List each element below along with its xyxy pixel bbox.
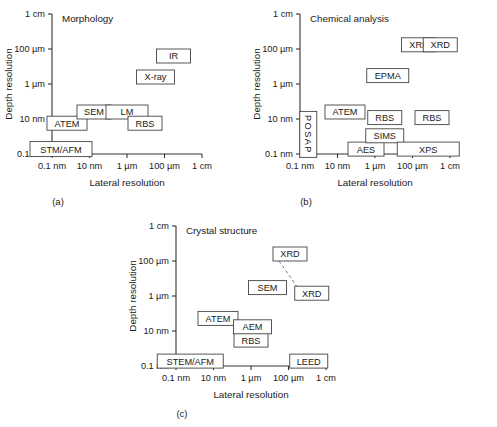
- technique-box: POSAP: [300, 111, 317, 157]
- y-axis-title: Depth resolution: [3, 48, 14, 119]
- x-tick-label: 1 cm: [192, 161, 212, 171]
- x-tick-label: 0.1 nm: [286, 161, 314, 171]
- technique-label: ATEM: [333, 107, 358, 117]
- technique-label: AEM: [243, 322, 263, 332]
- technique-label: RBS: [423, 113, 442, 123]
- technique-box: XRD: [295, 286, 329, 300]
- technique-label: X-ray: [145, 72, 167, 82]
- x-tick-label: 100 µm: [397, 161, 428, 171]
- y-tick-label: 100 µm: [138, 256, 169, 266]
- x-tick-label: 1 cm: [440, 161, 460, 171]
- x-tick-label: 0.1 nm: [38, 161, 66, 171]
- technique-box: EPMA: [367, 69, 409, 83]
- y-tick-label: 100 µm: [14, 44, 45, 54]
- technique-label: XRD: [431, 40, 451, 50]
- technique-box: SEM: [249, 281, 287, 295]
- technique-box: STM/AFM: [30, 142, 92, 157]
- y-tick-label: 1 cm: [273, 9, 293, 19]
- technique-box: X-ray: [137, 70, 175, 84]
- technique-label: SEM: [84, 107, 104, 117]
- y-tick-label: 1 µm: [148, 291, 169, 301]
- technique-box: RBS: [128, 116, 162, 130]
- technique-box: SIMS: [366, 129, 404, 143]
- y-tick-label: 1 cm: [149, 221, 169, 231]
- x-tick-label: 1 µm: [117, 161, 138, 171]
- panel-caption: (b): [300, 196, 312, 207]
- panel-c: 1 cm100 µm1 µm10 nm0.1 nm0.1 nm10 nm1 µm…: [124, 212, 373, 426]
- technique-label: LEED: [297, 357, 321, 367]
- technique-box: STEM/AFM: [157, 354, 223, 368]
- technique-label: STEM/AFM: [167, 357, 214, 367]
- technique-label: STM/AFM: [40, 145, 81, 155]
- x-tick-label: 100 µm: [149, 161, 180, 171]
- y-tick-label: 1 µm: [24, 79, 45, 89]
- technique-box: ATEM: [198, 311, 238, 325]
- technique-box: XRD: [273, 247, 307, 261]
- x-tick-label: 1 µm: [241, 373, 262, 383]
- axis-lines: [52, 14, 202, 154]
- panel-a: 1 cm100 µm1 µm10 nm0.1 nm0.1 nm10 nm1 µm…: [0, 0, 249, 214]
- panel-caption: (c): [176, 408, 187, 419]
- y-tick-label: 1 µm: [272, 79, 293, 89]
- technique-label: RBS: [375, 113, 394, 123]
- technique-label: XRD: [302, 289, 322, 299]
- y-tick-label: 10 nm: [267, 114, 293, 124]
- panel-title: Chemical analysis: [310, 13, 389, 24]
- technique-label: SEM: [258, 283, 278, 293]
- x-tick-label: 0.1 nm: [162, 373, 190, 383]
- y-axis-title: Depth resolution: [251, 48, 262, 119]
- x-tick-label: 10 nm: [201, 373, 227, 383]
- technique-label: POSAP: [303, 115, 313, 154]
- technique-box: ATEM: [325, 105, 365, 119]
- y-tick-label: 10 nm: [19, 114, 45, 124]
- technique-label: EPMA: [375, 71, 402, 81]
- panel-title: Morphology: [62, 13, 113, 24]
- panel-caption: (a): [52, 196, 64, 207]
- technique-label: XPS: [419, 145, 437, 155]
- y-tick-label: 1 cm: [25, 9, 45, 19]
- technique-box: XPS: [397, 142, 459, 156]
- technique-box: AES: [348, 142, 384, 156]
- technique-label: RBS: [136, 119, 155, 129]
- technique-box: RBS: [368, 111, 402, 125]
- x-axis-title: Lateral resolution: [337, 177, 412, 188]
- x-tick-label: 10 nm: [325, 161, 351, 171]
- panel-title: Crystal structure: [186, 225, 258, 236]
- technique-label: RBS: [242, 336, 261, 346]
- x-tick-label: 1 µm: [365, 161, 386, 171]
- technique-box: IR: [157, 49, 191, 63]
- technique-label: XRD: [280, 249, 300, 259]
- x-axis-title: Lateral resolution: [89, 177, 164, 188]
- panel-b: 1 cm100 µm1 µm10 nm0.1 nm0.1 nm10 nm1 µm…: [248, 0, 497, 214]
- y-tick-label: 0.1 nm: [265, 149, 293, 159]
- y-tick-label: 10 nm: [143, 326, 169, 336]
- technique-box: RBS: [234, 333, 268, 347]
- technique-label: ATEM: [206, 314, 231, 324]
- y-axis-title: Depth resolution: [127, 260, 138, 331]
- x-tick-label: 1 cm: [316, 373, 336, 383]
- technique-box: LEED: [290, 354, 328, 368]
- x-axis-title: Lateral resolution: [213, 389, 288, 400]
- technique-label: SIMS: [374, 131, 396, 141]
- y-tick-label: 100 µm: [262, 44, 293, 54]
- x-tick-label: 100 µm: [273, 373, 304, 383]
- technique-label: ATEM: [55, 119, 80, 129]
- technique-box: RBS: [415, 111, 449, 125]
- technique-label: IR: [169, 51, 179, 61]
- technique-box: AEM: [234, 320, 272, 334]
- technique-box: XRD: [423, 38, 457, 52]
- technique-label: AES: [357, 145, 375, 155]
- x-tick-label: 10 nm: [77, 161, 103, 171]
